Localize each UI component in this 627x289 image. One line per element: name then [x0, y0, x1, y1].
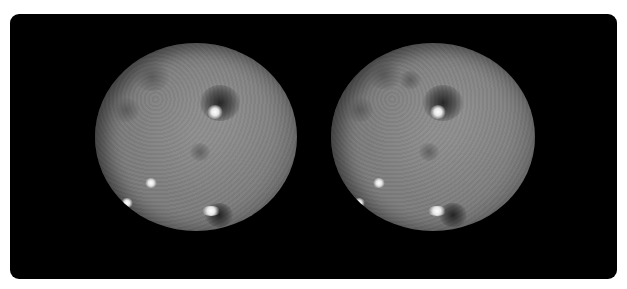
bright-spot [430, 105, 446, 119]
crater [190, 143, 210, 161]
crater [113, 98, 139, 122]
crater [135, 63, 169, 91]
crater [367, 61, 401, 89]
bright-spot [373, 178, 385, 188]
bright-spot [353, 198, 365, 208]
crater [399, 71, 421, 89]
ceres-right-view [331, 43, 535, 231]
bright-spot [427, 206, 447, 216]
crater [347, 98, 373, 122]
image-panel [10, 14, 617, 279]
bright-spot [207, 105, 223, 119]
bright-spot [145, 178, 157, 188]
bright-spot [121, 198, 133, 208]
crater [419, 143, 439, 161]
ceres-left-view [95, 43, 297, 231]
bright-spot [201, 206, 221, 216]
